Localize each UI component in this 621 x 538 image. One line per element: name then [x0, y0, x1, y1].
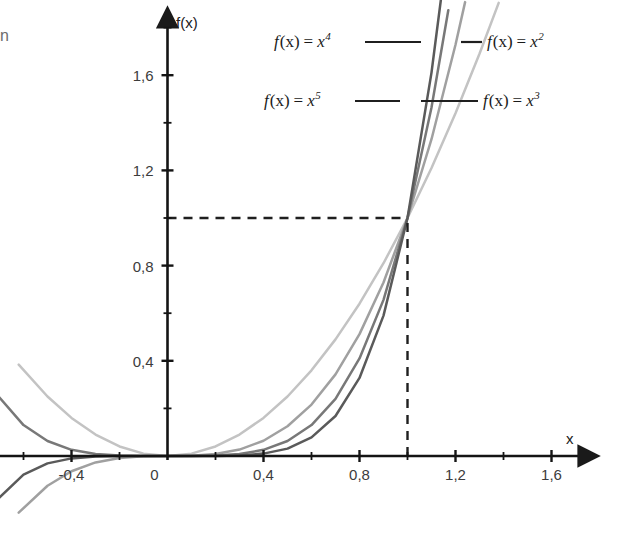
y-axis-label: f(x) — [176, 14, 198, 31]
x-tick-label: -0,4 — [59, 466, 85, 483]
x-tick-label: 1,2 — [445, 466, 466, 483]
legend-label-x5: f(x)=x5 — [264, 89, 321, 110]
curves-layer — [0, 0, 499, 513]
curve- — [0, 0, 441, 502]
y-tick-label: 1,6 — [133, 67, 154, 84]
legend-label-x4: f(x)=x4 — [274, 30, 331, 51]
guides-layer — [168, 218, 408, 456]
y-tick-label: 0,4 — [133, 353, 154, 370]
curve- — [0, 10, 448, 456]
x-tick-label: 0 — [150, 466, 158, 483]
legend-label-x2: f(x)=x2 — [487, 30, 544, 51]
x-tick-label: 0,8 — [349, 466, 370, 483]
x-axis-tick-labels: -0,400,40,81,21,6 — [59, 466, 562, 483]
x-tick-label: 1,6 — [541, 466, 562, 483]
curve- — [19, 3, 499, 456]
legend-label-x3: f(x)=x3 — [483, 89, 540, 110]
legend: f(x)=x4 f(x)=x2 f(x)=x5 f(x)=x3 — [264, 30, 544, 110]
plot-canvas: -0,400,40,81,21,6 0,40,81,21,6 x f(x) f(… — [0, 0, 621, 538]
y-tick-label: 0,8 — [133, 258, 154, 275]
x-axis-label: x — [566, 430, 574, 447]
y-tick-label: 1,2 — [133, 162, 154, 179]
y-axis-tick-labels: 0,40,81,21,6 — [133, 67, 154, 370]
x-tick-label: 0,4 — [253, 466, 274, 483]
function-plot-figure: -0,400,40,81,21,6 0,40,81,21,6 x f(x) f(… — [0, 0, 621, 538]
